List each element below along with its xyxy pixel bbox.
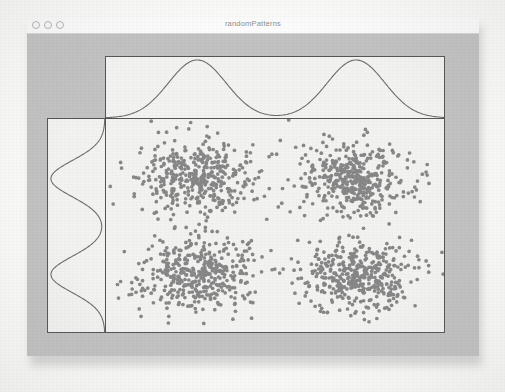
marginal-left-panel bbox=[47, 118, 105, 333]
window-title-bar[interactable]: randomPatterns bbox=[27, 18, 479, 34]
page-background: randomPatterns bbox=[0, 0, 505, 392]
marginal-top-density-plot bbox=[106, 57, 444, 118]
window-title: randomPatterns bbox=[27, 19, 479, 28]
application-window: randomPatterns bbox=[27, 18, 479, 356]
window-body bbox=[27, 34, 479, 356]
marginal-top-panel bbox=[105, 56, 445, 118]
marginal-left-density-plot bbox=[48, 119, 105, 332]
scatter-points-layer bbox=[106, 119, 444, 332]
main-scatter-panel bbox=[105, 118, 445, 333]
plot-canvas bbox=[27, 34, 479, 356]
